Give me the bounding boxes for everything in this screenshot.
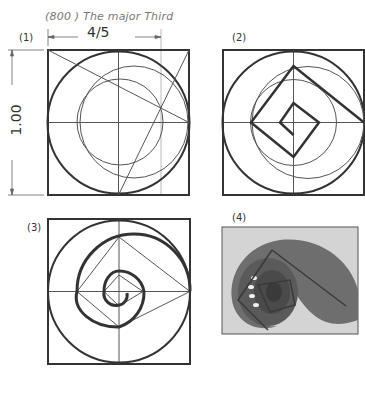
figure-container [0, 0, 365, 403]
